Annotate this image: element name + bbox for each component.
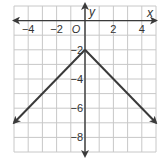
y-tick-label: −2 (70, 44, 83, 56)
chart-svg: −4−224−2−4−6−8Oxy (0, 0, 160, 160)
y-tick-label: −8 (70, 131, 83, 143)
axes (14, 4, 156, 156)
y-tick-label: −4 (70, 73, 83, 85)
x-tick-label: −2 (50, 23, 63, 35)
y-axis-label: y (88, 5, 96, 19)
graph-segment (85, 50, 156, 123)
x-tick-label: 4 (139, 23, 145, 35)
x-tick-label: −4 (22, 23, 35, 35)
x-axis-label: x (146, 6, 154, 20)
y-tick-label: −6 (70, 102, 83, 114)
coordinate-plane-chart: −4−224−2−4−6−8Oxy (0, 0, 160, 160)
x-tick-label: 2 (110, 23, 116, 35)
origin-label: O (72, 23, 81, 35)
